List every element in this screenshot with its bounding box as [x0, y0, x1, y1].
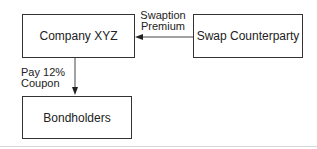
coupon-label-line2: Coupon	[21, 78, 65, 89]
premium-arrow	[135, 34, 193, 40]
company-xyz-label: Company XYZ	[39, 29, 117, 43]
bondholders-box: Bondholders	[22, 96, 132, 139]
swap-counterparty-label: Swap Counterparty	[197, 29, 300, 43]
bondholders-label: Bondholders	[43, 111, 110, 125]
coupon-edge-label: Pay 12% Coupon	[21, 67, 65, 89]
swap-counterparty-box: Swap Counterparty	[193, 14, 303, 58]
bottom-divider	[0, 146, 317, 147]
coupon-arrow	[72, 58, 78, 95]
company-xyz-box: Company XYZ	[22, 14, 135, 58]
premium-label-line2: Premium	[140, 21, 186, 32]
premium-edge-label: Swaption Premium	[140, 10, 186, 32]
